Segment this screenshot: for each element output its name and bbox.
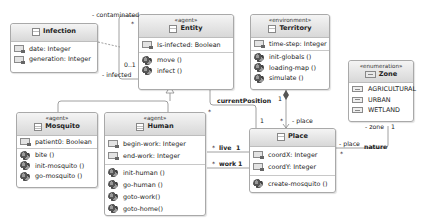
class-header: «environment» Territory xyxy=(251,15,329,38)
mult-current-position-place: 1 xyxy=(260,117,264,124)
mult-zone: 1 xyxy=(391,123,395,130)
class-name: Infection xyxy=(43,27,76,36)
operation-gear-icon xyxy=(20,172,30,181)
operation-gear-icon xyxy=(254,63,264,72)
mult-work-place: 1 xyxy=(238,160,242,167)
operation-gear-icon xyxy=(142,66,152,75)
attribute[interactable]: coordY: Integer xyxy=(253,161,332,173)
stereotype: «environment» xyxy=(251,17,329,24)
role-infected: - infected xyxy=(102,71,131,78)
mult-place-nature: * xyxy=(340,150,343,157)
operation[interactable]: goto-work() xyxy=(108,191,202,203)
attribute[interactable]: patient0: Boolean xyxy=(20,137,94,148)
class-icon xyxy=(34,123,42,131)
class-name: Human xyxy=(147,122,173,131)
class-mosquito[interactable]: «agent» Mosquito patient0: Boolean bite … xyxy=(16,112,98,188)
operation[interactable]: create-mosquito () xyxy=(253,178,332,190)
class-icon xyxy=(268,25,276,33)
operation-gear-icon xyxy=(20,161,30,170)
operations-section: move () infect () xyxy=(139,53,233,78)
operation[interactable]: simulate () xyxy=(254,73,326,84)
operation-gear-icon xyxy=(254,53,264,62)
operation-gear-icon xyxy=(108,168,118,177)
operations-section: init-globals () loading-map () simulate … xyxy=(251,51,329,85)
class-name: Mosquito xyxy=(45,122,79,131)
assoc-live: live xyxy=(219,144,231,151)
class-territory[interactable]: «environment» Territory time-step: Integ… xyxy=(250,14,330,90)
assoc-work: work xyxy=(219,160,236,167)
stereotype: «agent» xyxy=(17,115,97,122)
enum-literal[interactable]: AGRICULTURAL xyxy=(352,84,410,95)
class-name: Territory xyxy=(279,24,311,33)
class-header: «agent» Human xyxy=(105,113,205,136)
assoc-nature: nature xyxy=(364,143,387,150)
class-name: Entity xyxy=(180,24,202,33)
operations-section: bite () init-mosquito () go-mosquito () xyxy=(17,149,97,183)
literal-icon xyxy=(352,107,363,113)
role-contaminated: - contaminated xyxy=(92,11,139,18)
operation[interactable]: infect () xyxy=(142,66,230,77)
operation-gear-icon xyxy=(108,192,118,201)
attribute[interactable]: coordX: Integer xyxy=(253,149,332,161)
operation[interactable]: move () xyxy=(142,55,230,66)
attribute[interactable]: generation: Integer xyxy=(14,54,94,65)
attribute-icon xyxy=(254,40,264,47)
class-header: Infection xyxy=(11,24,97,42)
attribute-icon xyxy=(253,151,263,158)
operation[interactable]: go-human () xyxy=(108,179,202,191)
class-header: «agent» Entity xyxy=(139,15,233,38)
mult-territory: 1 xyxy=(278,95,282,102)
class-name: Place xyxy=(288,132,308,141)
operation[interactable]: init-globals () xyxy=(254,52,326,63)
operation-gear-icon xyxy=(142,56,152,65)
attributes-section: time-step: Integer xyxy=(251,38,329,52)
class-entity[interactable]: «agent» Entity Is-infected: Boolean move… xyxy=(138,14,234,90)
mult-work-human: * xyxy=(212,160,215,167)
operation-gear-icon xyxy=(108,180,118,189)
assoc-current-position: currentPosition xyxy=(217,97,271,104)
enum-literal[interactable]: WETLAND xyxy=(352,105,410,116)
mult-place-territory: * xyxy=(280,117,283,124)
attribute[interactable]: time-step: Integer xyxy=(254,39,326,50)
stereotype: «enumeration» xyxy=(349,63,413,70)
operation-gear-icon xyxy=(253,179,263,188)
enum-literal[interactable]: URBAN xyxy=(352,95,410,106)
attributes-section: Is-infected: Boolean xyxy=(139,38,233,54)
class-infection[interactable]: Infection date: Integer generation: Inte… xyxy=(10,23,98,73)
attribute-icon xyxy=(14,45,24,52)
attribute-icon xyxy=(108,140,118,147)
attribute-icon xyxy=(20,138,30,145)
mult-live-place: 1 xyxy=(236,144,240,151)
class-human[interactable]: «agent» Human begin-work: Integer end-wo… xyxy=(104,112,206,216)
enumeration-icon xyxy=(365,71,376,78)
stereotype: «agent» xyxy=(105,115,205,122)
role-zone: - zone xyxy=(365,123,384,130)
attribute[interactable]: end-work: Integer xyxy=(108,150,202,162)
operation[interactable]: go-mosquito () xyxy=(20,171,94,182)
attribute[interactable]: Is-infected: Boolean xyxy=(142,40,230,51)
attributes-section: coordX: Integer coordY: Integer xyxy=(250,147,335,176)
operations-section: create-mosquito () xyxy=(250,176,335,192)
operation[interactable]: init-human () xyxy=(108,167,202,179)
operation[interactable]: goto-home() xyxy=(108,203,202,215)
enum-zone[interactable]: «enumeration» Zone AGRICULTURAL URBAN WE… xyxy=(348,60,414,122)
class-icon xyxy=(277,133,285,141)
literals-section: AGRICULTURAL URBAN WETLAND xyxy=(349,83,413,117)
class-place[interactable]: Place coordX: Integer coordY: Integer cr… xyxy=(249,128,336,193)
operations-section: init-human () go-human () goto-work() go… xyxy=(105,165,205,217)
class-icon xyxy=(169,25,177,33)
operation-gear-icon xyxy=(20,151,30,160)
class-header: Place xyxy=(250,129,335,147)
mult-infected: 0..1 xyxy=(124,61,136,68)
attribute-icon xyxy=(253,163,263,170)
attribute[interactable]: begin-work: Integer xyxy=(108,138,202,150)
attribute-icon xyxy=(108,152,118,159)
literal-icon xyxy=(352,86,363,92)
attribute[interactable]: date: Integer xyxy=(14,44,94,55)
attributes-section: begin-work: Integer end-work: Integer xyxy=(105,136,205,165)
operation-gear-icon xyxy=(108,204,118,213)
class-icon xyxy=(136,123,144,131)
operation[interactable]: init-mosquito () xyxy=(20,161,94,172)
operation[interactable]: bite () xyxy=(20,150,94,161)
operation[interactable]: loading-map () xyxy=(254,63,326,74)
